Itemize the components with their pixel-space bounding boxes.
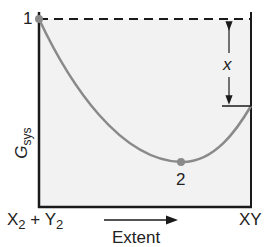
x-start-Y-sub: 2 (56, 217, 63, 232)
y-axis-label: Gsys (12, 118, 34, 168)
x-start-X: X (7, 210, 18, 229)
delta-label: x (223, 56, 232, 73)
point-1-marker (35, 15, 43, 23)
point-2-label: 2 (176, 171, 185, 188)
point-2-marker (177, 158, 185, 166)
x-axis-label: Extent (112, 229, 160, 246)
x-end-label: XY (239, 211, 262, 228)
y-axis-label-sub: sys (20, 128, 34, 146)
x-start-X-sub: 2 (18, 217, 25, 232)
x-start-label: X2 + Y2 (7, 211, 63, 231)
y-axis-label-main: G (12, 146, 31, 159)
x-start-plusY: + Y (26, 210, 56, 229)
plot-area (39, 19, 251, 207)
point-1-label: 1 (23, 10, 32, 27)
